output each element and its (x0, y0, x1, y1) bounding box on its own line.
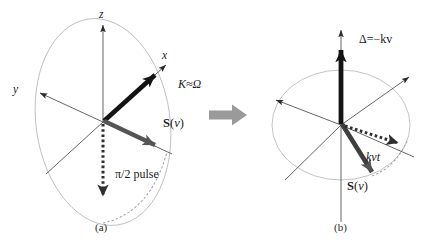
panel-b-spin-vector-label: S(v) (347, 180, 368, 193)
panel-a-axis-label-z: z (99, 9, 103, 21)
panel-b-axis-upper-left (276, 100, 341, 125)
panel-b-detuning-label: Δ=−kv (359, 33, 392, 45)
transition-arrow-group (209, 105, 247, 126)
panel-a-spin-symbol: S (163, 116, 170, 130)
panel-b-phase-label: kvt (366, 151, 380, 163)
panel-a-axis-x-negative (46, 122, 103, 174)
figure-root: z y x K≈Ω S(v) π/2 pulse (a) Δ=−kv kvt S… (0, 0, 444, 249)
panel-b-spin-symbol: S (347, 179, 354, 193)
panel-a-pulse-arc (103, 152, 167, 223)
panel-b-axis-upper-right (341, 77, 409, 125)
panel-b-axis-lower-left (285, 125, 341, 180)
panel-b-group (272, 30, 414, 222)
panel-a-spin-close-paren: ) (180, 116, 184, 130)
panel-b-caption: (b) (334, 222, 347, 233)
panel-b-spin-close-paren: ) (364, 179, 368, 193)
panel-a-axis-label-y: y (13, 84, 18, 96)
panel-b-s-vector (342, 124, 372, 172)
panel-a-k-vector (104, 75, 155, 121)
panel-a-s-vector (104, 121, 155, 145)
panel-a-coupling-label: K≈Ω (178, 78, 201, 90)
transition-arrow-icon (209, 105, 247, 126)
panel-a-axis-label-x: x (162, 50, 167, 62)
panel-a-group (22, 10, 184, 235)
panel-a-pulse-label: π/2 pulse (115, 168, 159, 180)
panel-a-axis-y (40, 93, 103, 122)
panel-a-caption: (a) (95, 222, 107, 233)
panel-a-spin-vector-label: S(v) (163, 117, 184, 130)
